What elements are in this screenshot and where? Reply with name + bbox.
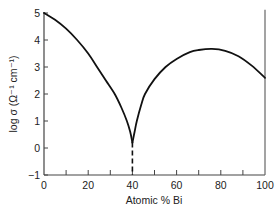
conductivity-curve <box>44 13 132 143</box>
x-tick-label: 60 <box>171 179 183 191</box>
data-series <box>44 13 265 175</box>
y-tick-label: 5 <box>34 7 40 19</box>
x-tick-label: 20 <box>82 179 94 191</box>
y-tick-label: 2 <box>34 88 40 100</box>
y-tick-label: 1 <box>34 115 40 127</box>
conductivity-right-branch-curve <box>132 49 265 143</box>
x-tick-label: 100 <box>256 179 274 191</box>
y-axis-label: log σ (Ω⁻¹ cm⁻¹) <box>7 55 19 132</box>
x-tick-label: 80 <box>215 179 227 191</box>
x-tick-label: 0 <box>41 179 47 191</box>
y-tick-label: 0 <box>34 142 40 154</box>
x-tick-label: 40 <box>127 179 139 191</box>
axes <box>44 10 265 175</box>
y-tick-label: 3 <box>34 61 40 73</box>
y-tick-label: −1 <box>28 169 40 181</box>
y-tick-label: 4 <box>34 34 40 46</box>
x-axis-label: Atomic % Bi <box>126 194 183 206</box>
conductivity-chart: 543210−1020406080100 Atomic % Bi log σ (… <box>0 0 278 209</box>
ticks: 543210−1020406080100 <box>28 7 274 191</box>
